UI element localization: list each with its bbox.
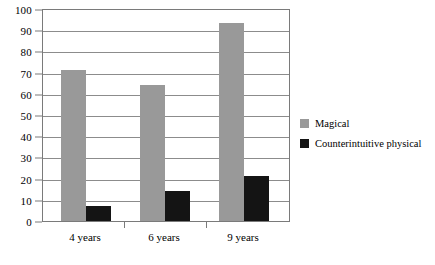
legend-label: Counterintuitive physical <box>315 138 421 149</box>
x-tick-label-6-years: 6 years <box>148 231 179 243</box>
y-tick-mark <box>35 222 42 223</box>
gridline <box>43 31 289 32</box>
y-tick-label: 90 <box>21 26 32 37</box>
y-tick-mark <box>35 10 42 11</box>
bar-counterintuitive-9-years <box>244 176 269 221</box>
y-tick-label: 20 <box>21 174 32 185</box>
y-tick-mark <box>35 31 42 32</box>
bar-magical-9-years <box>219 23 244 221</box>
y-tick-mark <box>35 73 42 74</box>
y-tick-label: 50 <box>21 111 32 122</box>
y-tick-mark <box>35 116 42 117</box>
x-axis-divider <box>124 222 125 228</box>
bar-counterintuitive-4-years <box>86 206 111 221</box>
gridline <box>43 52 289 53</box>
y-tick-mark <box>35 94 42 95</box>
y-tick-label: 80 <box>21 47 32 58</box>
y-tick-mark <box>35 179 42 180</box>
x-tick-label-9-years: 9 years <box>227 231 258 243</box>
plot-area <box>42 9 290 222</box>
legend: Magical Counterintuitive physical <box>300 118 432 158</box>
y-tick-label: 0 <box>26 217 32 228</box>
bar-magical-4-years <box>61 70 86 221</box>
y-tick-mark <box>35 158 42 159</box>
bar-chart: 100 90 80 70 60 50 40 30 20 10 0 <box>0 0 435 265</box>
y-axis: 100 90 80 70 60 50 40 30 20 10 0 <box>0 0 42 231</box>
bar-counterintuitive-6-years <box>165 191 190 221</box>
legend-swatch-icon <box>300 139 309 148</box>
y-tick-label: 30 <box>21 153 32 164</box>
legend-item-magical: Magical <box>300 118 432 129</box>
y-tick-mark <box>35 52 42 53</box>
y-tick-label: 100 <box>15 5 32 16</box>
y-tick-mark <box>35 137 42 138</box>
bar-magical-6-years <box>140 85 165 221</box>
legend-label: Magical <box>315 118 349 129</box>
x-axis-divider <box>206 222 207 228</box>
legend-swatch-icon <box>300 119 309 128</box>
x-tick-label-4-years: 4 years <box>69 231 100 243</box>
legend-item-counterintuitive-physical: Counterintuitive physical <box>300 138 432 149</box>
y-tick-mark <box>35 200 42 201</box>
y-tick-label: 60 <box>21 89 32 100</box>
y-tick-label: 40 <box>21 132 32 143</box>
y-tick-label: 70 <box>21 68 32 79</box>
y-tick-label: 10 <box>21 195 32 206</box>
